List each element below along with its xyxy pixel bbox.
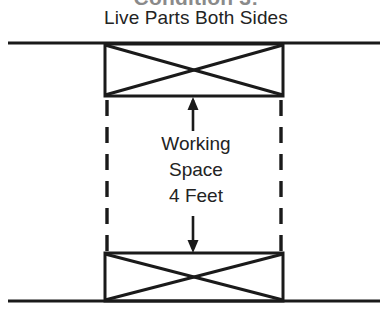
working-space-diagram: Condition 3: Live Parts Both Sides xyxy=(0,0,392,315)
down-dimension-arrow xyxy=(188,216,199,253)
working-space-label-line-3: 4 Feet xyxy=(120,183,272,209)
up-arrow-head xyxy=(188,97,199,110)
lower-equipment xyxy=(105,253,283,301)
working-space-label-line-2: Space xyxy=(120,157,272,183)
up-dimension-arrow xyxy=(188,97,199,131)
working-space-label: Working Space 4 Feet xyxy=(120,131,272,209)
working-space-label-line-1: Working xyxy=(120,131,272,157)
down-arrow-head xyxy=(188,240,199,253)
upper-equipment xyxy=(105,44,283,96)
